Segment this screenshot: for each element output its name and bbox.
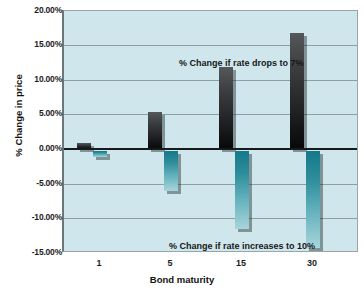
y-axis-title: % Change in price: [13, 46, 24, 186]
gridline-5: [64, 114, 357, 115]
gridline-10: [64, 80, 357, 81]
plot-area: % Change if rate drops to 7% % Change if…: [62, 10, 358, 252]
bar-body: [148, 112, 162, 149]
x-axis-title: Bond maturity: [0, 274, 364, 285]
bar-down-1: [93, 151, 107, 157]
ytick-label-minus-15: -15.00%: [6, 248, 62, 257]
bar-body: [93, 151, 107, 157]
bar-body: [290, 33, 304, 149]
ytick-label-20: 20.00%: [6, 6, 62, 15]
bar-up-15: [219, 67, 233, 149]
xtick-label-1: 1: [79, 258, 119, 268]
zero-baseline: [64, 148, 357, 150]
bar-body: [219, 67, 233, 149]
bar-chart: % Change if rate drops to 7% % Change if…: [0, 0, 364, 292]
bar-body: [164, 151, 178, 191]
annotation-rate-drop: % Change if rate drops to 7%: [179, 58, 304, 68]
xtick-label-5: 5: [150, 258, 190, 268]
bar-down-5: [164, 151, 178, 191]
bar-up-30: [290, 33, 304, 149]
xtick-label-30: 30: [292, 258, 332, 268]
bar-up-5: [148, 112, 162, 149]
annotation-rate-increase: % Change if rate increases to 10%: [169, 241, 315, 251]
ytick-label-minus-10: -10.00%: [6, 213, 62, 222]
xtick-label-15: 15: [221, 258, 261, 268]
bar-down-30: [306, 151, 320, 248]
bar-body: [306, 151, 320, 248]
gridline-15: [64, 45, 357, 46]
bar-body: [235, 151, 249, 229]
bar-down-15: [235, 151, 249, 229]
